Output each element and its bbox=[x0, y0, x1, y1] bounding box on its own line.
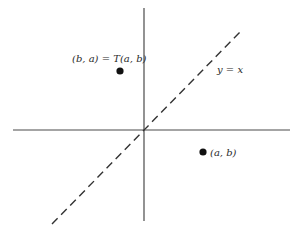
label-image-point: (b, a) = T(a, b) bbox=[72, 53, 147, 64]
point-original-ab bbox=[199, 148, 206, 155]
label-line-y-equals-x: y = x bbox=[216, 64, 243, 75]
point-image-t-ab bbox=[116, 67, 123, 74]
label-original-point: (a, b) bbox=[210, 147, 237, 158]
reflection-diagram: (b, a) = T(a, b) (a, b) y = x bbox=[0, 0, 294, 239]
